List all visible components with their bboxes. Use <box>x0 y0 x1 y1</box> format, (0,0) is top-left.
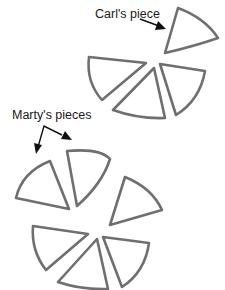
top-piece-left <box>89 57 146 100</box>
bottom-piece-right <box>110 177 162 225</box>
carl-piece <box>165 8 218 53</box>
marty-label: Marty's pieces <box>12 108 92 122</box>
marty-arrows-icon <box>34 126 72 154</box>
marty-piece-2 <box>67 150 110 206</box>
pizza-slices-diagram: Carl's piece Marty's pieces <box>0 0 225 290</box>
carl-label: Carl's piece <box>95 7 160 21</box>
top-piece-right <box>160 64 205 115</box>
marty-piece-1 <box>16 161 69 209</box>
bottom-piece-left <box>33 226 88 270</box>
bottom-pizza-group <box>16 150 162 289</box>
bottom-piece-right-lower <box>103 237 149 287</box>
top-piece-bottom <box>113 68 165 118</box>
bottom-piece-bottom <box>58 239 108 289</box>
